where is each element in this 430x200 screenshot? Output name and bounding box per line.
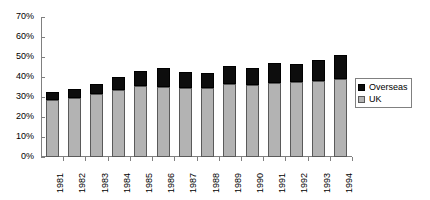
legend-item-overseas[interactable]: Overseas: [358, 81, 408, 93]
bar-segment-overseas[interactable]: [268, 63, 281, 83]
x-tick-mark: [241, 157, 242, 161]
bar-segment-uk[interactable]: [223, 84, 236, 157]
plot-area: [41, 17, 352, 157]
y-tick-mark: [41, 157, 45, 158]
bar-group[interactable]: [312, 0, 325, 200]
bar-segment-overseas[interactable]: [112, 77, 125, 90]
y-tick-label: 0%: [21, 152, 34, 161]
bar-segment-uk[interactable]: [268, 83, 281, 157]
bar-group[interactable]: [90, 0, 103, 200]
gray-square-swatch: [358, 96, 365, 103]
bar-segment-uk[interactable]: [46, 100, 59, 157]
y-tick-mark: [41, 97, 45, 98]
legend-label-overseas: Overseas: [369, 82, 408, 92]
y-tick-label: 40%: [16, 72, 34, 81]
bar-segment-overseas[interactable]: [179, 72, 192, 88]
bar-segment-uk[interactable]: [334, 79, 347, 157]
bar-segment-overseas[interactable]: [68, 89, 81, 98]
bar-group[interactable]: [201, 0, 214, 200]
x-tick-mark: [108, 157, 109, 161]
bar-group[interactable]: [112, 0, 125, 200]
x-tick-label: 1985: [145, 173, 154, 193]
y-tick-label: 20%: [16, 112, 34, 121]
bar-group[interactable]: [290, 0, 303, 200]
x-tick-mark: [330, 157, 331, 161]
y-axis: 0%10%20%30%40%50%60%70%: [0, 0, 41, 200]
x-tick-mark: [219, 157, 220, 161]
bar-segment-overseas[interactable]: [46, 92, 59, 100]
x-tick-label: 1992: [300, 173, 309, 193]
bar-group[interactable]: [46, 0, 59, 200]
bar-segment-uk[interactable]: [290, 82, 303, 157]
x-tick-label: 1990: [256, 173, 265, 193]
x-tick-label: 1994: [345, 173, 354, 193]
y-tick-mark: [41, 77, 45, 78]
bar-segment-uk[interactable]: [112, 90, 125, 157]
x-tick-label: 1986: [167, 173, 176, 193]
x-tick-label: 1988: [212, 173, 221, 193]
bar-segment-overseas[interactable]: [334, 55, 347, 79]
x-tick-mark: [152, 157, 153, 161]
stacked-bar-chart: 0%10%20%30%40%50%60%70% 1981198219831984…: [0, 0, 430, 200]
bar-group[interactable]: [68, 0, 81, 200]
x-tick-mark: [285, 157, 286, 161]
chart-legend: Overseas UK: [355, 78, 412, 108]
bar-segment-uk[interactable]: [90, 94, 103, 157]
bar-group[interactable]: [179, 0, 192, 200]
bar-segment-uk[interactable]: [179, 88, 192, 157]
x-tick-label: 1984: [123, 173, 132, 193]
y-tick-label: 10%: [16, 132, 34, 141]
x-tick-mark: [85, 157, 86, 161]
y-tick-mark: [41, 57, 45, 58]
bar-group[interactable]: [268, 0, 281, 200]
bar-segment-overseas[interactable]: [223, 66, 236, 84]
bar-group[interactable]: [157, 0, 170, 200]
x-tick-label: 1991: [278, 173, 287, 193]
x-tick-label: 1983: [101, 173, 110, 193]
x-tick-mark: [263, 157, 264, 161]
legend-label-uk: UK: [369, 94, 382, 104]
bar-segment-overseas[interactable]: [290, 64, 303, 82]
x-tick-label: 1987: [189, 173, 198, 193]
x-tick-mark: [63, 157, 64, 161]
y-tick-label: 50%: [16, 52, 34, 61]
y-tick-label: 30%: [16, 92, 34, 101]
x-tick-label: 1993: [323, 173, 332, 193]
bar-segment-overseas[interactable]: [246, 68, 259, 85]
bar-group[interactable]: [223, 0, 236, 200]
bar-segment-overseas[interactable]: [312, 60, 325, 81]
bar-group[interactable]: [334, 0, 347, 200]
bar-segment-uk[interactable]: [312, 81, 325, 157]
bar-segment-overseas[interactable]: [90, 84, 103, 94]
bar-segment-uk[interactable]: [157, 87, 170, 157]
x-tick-mark: [197, 157, 198, 161]
black-square-swatch: [358, 84, 365, 91]
x-tick-mark: [352, 157, 353, 161]
y-tick-mark: [41, 137, 45, 138]
x-tick-mark: [308, 157, 309, 161]
bar-group[interactable]: [134, 0, 147, 200]
x-tick-mark: [174, 157, 175, 161]
legend-item-uk[interactable]: UK: [358, 93, 408, 105]
y-tick-mark: [41, 117, 45, 118]
bar-segment-uk[interactable]: [134, 86, 147, 157]
x-tick-mark: [130, 157, 131, 161]
y-tick-label: 70%: [16, 12, 34, 21]
y-tick-mark: [41, 37, 45, 38]
y-tick-mark: [41, 17, 45, 18]
bar-segment-overseas[interactable]: [157, 68, 170, 87]
x-tick-label: 1989: [234, 173, 243, 193]
bar-segment-uk[interactable]: [201, 88, 214, 157]
bar-segment-overseas[interactable]: [201, 73, 214, 88]
bar-segment-uk[interactable]: [68, 98, 81, 157]
y-tick-label: 60%: [16, 32, 34, 41]
x-tick-label: 1982: [78, 173, 87, 193]
bar-segment-uk[interactable]: [246, 85, 259, 157]
bar-group[interactable]: [246, 0, 259, 200]
x-tick-label: 1981: [56, 173, 65, 193]
bar-segment-overseas[interactable]: [134, 71, 147, 86]
